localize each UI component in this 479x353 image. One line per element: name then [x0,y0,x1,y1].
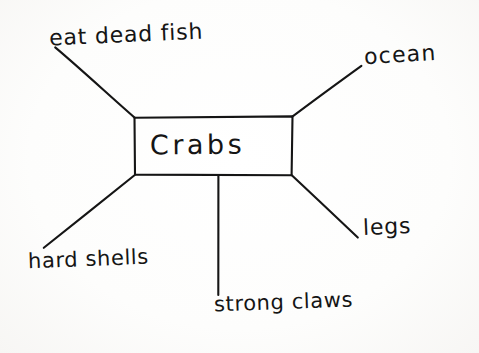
branch-label-hard-shells: hard shells [28,247,150,273]
center-node-label: Crabs [150,131,245,159]
branch-label-legs: legs [363,215,412,239]
connector-legs[interactable] [292,175,358,237]
connector-hard-shells[interactable] [44,175,135,248]
connector-eat-dead-fish[interactable] [55,47,134,117]
concept-map-canvas: Crabs eat dead fish ocean hard shells st… [0,0,479,353]
branch-label-ocean: ocean [363,42,437,68]
connector-ocean[interactable] [292,66,361,117]
branch-label-strong-claws: strong claws [214,290,354,316]
